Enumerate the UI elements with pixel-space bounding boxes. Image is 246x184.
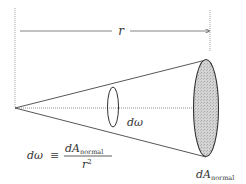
solid-angle-diagram: r dω dAnormal dω ≡ dAnormal r2 <box>0 0 246 184</box>
distance-label: r <box>118 24 125 38</box>
solid-angle-formula: dω ≡ dAnormal r2 <box>27 142 112 171</box>
diagram-canvas: r dω dAnormal dω ≡ dAnormal r2 <box>0 0 246 184</box>
small-cross-section <box>108 87 119 127</box>
cone-upper-edge <box>15 60 206 108</box>
formula-equiv: ≡ <box>50 149 59 162</box>
formula-numerator: dAnormal <box>65 142 103 156</box>
numerator-main: dA <box>65 142 80 155</box>
solid-angle-label: dω <box>127 116 143 129</box>
formula-denominator: r2 <box>82 158 92 171</box>
area-element <box>194 60 219 157</box>
denominator-exp: 2 <box>87 158 91 166</box>
area-label: dAnormal <box>196 168 234 182</box>
formula-lhs: dω <box>27 149 43 162</box>
cone-lower-edge <box>15 108 206 157</box>
area-label-main: dA <box>196 168 211 181</box>
numerator-sub: normal <box>80 148 103 156</box>
area-label-sub: normal <box>211 174 234 182</box>
